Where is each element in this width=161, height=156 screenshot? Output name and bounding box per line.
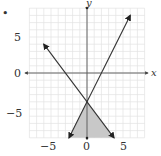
bullet-marker: • bbox=[2, 7, 9, 20]
tick-y-5: 5 bbox=[14, 31, 21, 44]
x-axis-label: x bbox=[151, 67, 157, 78]
tick-x-0: 0 bbox=[83, 140, 90, 153]
y-axis-bottom-dot bbox=[86, 137, 89, 140]
tick-y-neg5: −5 bbox=[6, 107, 22, 120]
tick-x-neg5: −5 bbox=[40, 140, 56, 153]
tick-y-0: 0 bbox=[14, 67, 21, 80]
coordinate-plane: • y x 5 0 −5 −5 0 5 bbox=[0, 0, 161, 156]
tick-x-5: 5 bbox=[120, 140, 127, 153]
y-axis-label: y bbox=[85, 0, 92, 8]
